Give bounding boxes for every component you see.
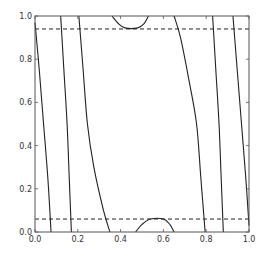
x-tick-label: 1.0 bbox=[243, 235, 256, 244]
y-tick-label: 0.6 bbox=[19, 98, 32, 107]
curve-4 bbox=[174, 16, 205, 232]
curve-3 bbox=[79, 16, 110, 232]
y-tick-label: 1.0 bbox=[19, 12, 32, 21]
curve-2 bbox=[61, 16, 72, 232]
curves bbox=[35, 16, 249, 232]
x-tick-label: 0.8 bbox=[200, 235, 213, 244]
arc-top bbox=[112, 16, 148, 28]
curve-6 bbox=[233, 16, 249, 226]
y-tick-label: 0.0 bbox=[19, 228, 32, 237]
x-tick-label: 0.6 bbox=[157, 235, 170, 244]
curve-5 bbox=[213, 16, 224, 232]
arc-bottom bbox=[136, 218, 175, 232]
y-tick-label: 0.4 bbox=[19, 142, 32, 151]
chart: 0.00.20.40.60.81.0 0.00.20.40.60.81.0 bbox=[0, 0, 270, 259]
x-tick-label: 0.2 bbox=[71, 235, 84, 244]
y-tick-label: 0.2 bbox=[19, 185, 32, 194]
y-tick-label: 0.8 bbox=[19, 55, 32, 64]
x-tick-label: 0.4 bbox=[114, 235, 127, 244]
curve-1 bbox=[35, 22, 51, 232]
